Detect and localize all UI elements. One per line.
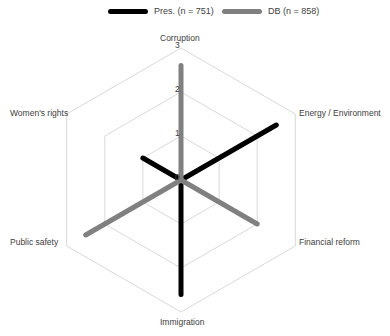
axis-label-energy: Energy / Environment bbox=[299, 108, 381, 118]
series-1-spoke-4 bbox=[86, 180, 181, 235]
legend-label-db: DB (n = 858) bbox=[268, 6, 319, 16]
legend-swatch-pres bbox=[108, 9, 148, 14]
radar-series bbox=[86, 66, 277, 295]
tick-label-2: 2 bbox=[175, 84, 180, 94]
radar-chart bbox=[0, 0, 390, 336]
tick-label-1: 1 bbox=[175, 128, 180, 138]
chart-legend: Pres. (n = 751) DB (n = 858) bbox=[0, 6, 390, 22]
tick-label-3: 3 bbox=[175, 40, 180, 50]
series-0-spoke-1 bbox=[181, 125, 276, 180]
axis-label-public-safety: Public safety bbox=[10, 237, 58, 247]
legend-item-pres: Pres. (n = 751) bbox=[108, 6, 214, 16]
tick-label-0: 0 bbox=[175, 172, 180, 182]
axis-label-financial: Financial reform bbox=[299, 237, 360, 247]
legend-item-db: DB (n = 858) bbox=[222, 6, 319, 16]
legend-swatch-db bbox=[222, 9, 262, 14]
axis-label-immigration: Immigration bbox=[160, 317, 204, 327]
axis-label-womens-rights: Women's rights bbox=[10, 108, 68, 118]
legend-label-pres: Pres. (n = 751) bbox=[154, 6, 214, 16]
